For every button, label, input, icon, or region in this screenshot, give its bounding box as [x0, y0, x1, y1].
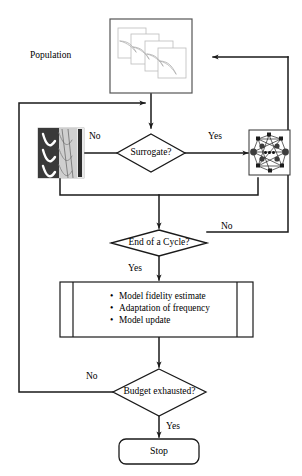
cfd-simulation-thumbnail — [38, 128, 84, 178]
neural-network-thumbnail — [249, 130, 290, 175]
surrogate-decision-label: Surrogate? — [117, 147, 185, 157]
edge-merge-bar — [60, 178, 258, 195]
cycle-yes-label: Yes — [128, 263, 142, 273]
budget-yes-label: Yes — [166, 421, 180, 431]
cycle-no-label: No — [221, 221, 233, 231]
population-label: Population — [30, 50, 71, 60]
process-item: Model update — [110, 314, 210, 326]
process-item-list: Model fidelity estimate Adaptation of fr… — [110, 290, 210, 327]
cycle-decision-label: End of a Cycle? — [111, 237, 207, 247]
process-item: Adaptation of frequency — [110, 302, 210, 314]
budget-decision-label: Budget exhausted? — [113, 386, 206, 396]
budget-no-label: No — [86, 371, 98, 381]
process-item: Model fidelity estimate — [110, 290, 210, 302]
stop-label: Stop — [119, 445, 199, 456]
flowchart-diagram: Population Surrogate? No Yes End of a Cy… — [0, 0, 302, 476]
surrogate-yes-label: Yes — [208, 131, 222, 141]
surrogate-no-label: No — [89, 131, 101, 141]
